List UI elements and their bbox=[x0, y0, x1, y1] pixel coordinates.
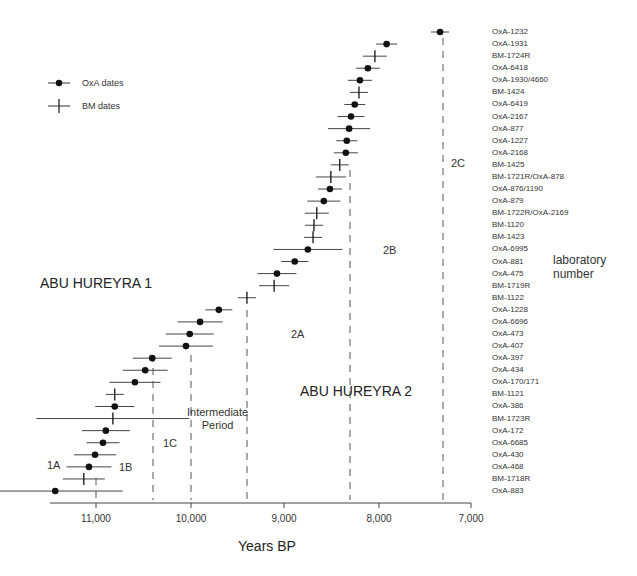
data-point-oxa bbox=[336, 137, 357, 144]
lab-number-label: OxA-6419 bbox=[492, 99, 528, 109]
data-point-oxa bbox=[257, 270, 296, 277]
x-axis-title: Years BP bbox=[238, 538, 296, 554]
data-point-bm bbox=[331, 159, 349, 171]
data-point-oxa bbox=[334, 150, 358, 157]
lab-number-label: OxA-386 bbox=[492, 401, 524, 411]
data-point-oxa bbox=[74, 452, 116, 459]
lab-number-label: BM-1723R bbox=[492, 414, 530, 424]
lab-number-label: OxA-883 bbox=[492, 486, 524, 496]
phase-2a-label: 2A bbox=[291, 328, 304, 341]
data-point-oxa bbox=[318, 186, 342, 193]
data-point-oxa bbox=[66, 464, 111, 471]
data-point-oxa bbox=[166, 331, 214, 338]
data-point-oxa bbox=[338, 113, 365, 120]
lab-number-label: BM-1120 bbox=[492, 220, 524, 230]
phase-1c-label: 1C bbox=[163, 437, 177, 450]
lab-number-label: BM-1423 bbox=[492, 232, 524, 242]
data-point-oxa bbox=[348, 77, 372, 84]
x-axis bbox=[50, 503, 471, 508]
lab-number-label: OxA-1232 bbox=[492, 27, 528, 37]
lab-number-label: OxA-879 bbox=[492, 196, 524, 206]
data-point-bm bbox=[63, 473, 105, 485]
lab-number-label: BM-1724R bbox=[492, 51, 530, 61]
lab-number-label: OxA-172 bbox=[492, 426, 524, 436]
lab-number-label: OxA-473 bbox=[492, 329, 524, 339]
lab-number-label: BM-1718R bbox=[492, 474, 530, 484]
lab-number-label: OxA-468 bbox=[492, 462, 524, 472]
data-point-oxa bbox=[376, 41, 397, 48]
abu-hureyra-2-label: ABU HUREYRA 2 bbox=[300, 383, 412, 399]
tick-8000: 8,000 bbox=[366, 513, 391, 524]
data-point-oxa bbox=[281, 258, 308, 265]
data-point-oxa bbox=[356, 65, 380, 72]
lab-number-label: OxA-1930/4660 bbox=[492, 75, 548, 85]
tick-10000: 10,000 bbox=[176, 513, 207, 524]
lab-number-label: OxA-1227 bbox=[492, 136, 528, 146]
lab-number-label: OxA-475 bbox=[492, 269, 524, 279]
data-point-bm bbox=[305, 219, 323, 231]
legend-bm-label: BM dates bbox=[82, 101, 120, 111]
lab-number-label: BM-1121 bbox=[492, 389, 524, 399]
legend-oxa-label: OxA dates bbox=[82, 78, 124, 88]
data-point-oxa bbox=[159, 343, 213, 350]
data-point-oxa bbox=[95, 403, 134, 410]
data-point-oxa bbox=[328, 125, 370, 132]
data-point-bm bbox=[259, 280, 289, 292]
phase-2c-label: 2C bbox=[451, 157, 465, 170]
data-point-bm bbox=[305, 207, 329, 219]
y-axis-title: laboratory number bbox=[553, 253, 606, 281]
legend bbox=[48, 80, 70, 113]
lab-number-label: OxA-407 bbox=[492, 341, 524, 351]
period-boundary-lines bbox=[96, 38, 443, 500]
lab-number-label: OxA-881 bbox=[492, 257, 524, 267]
lab-number-label: OxA-1228 bbox=[492, 305, 528, 315]
data-point-bm bbox=[106, 388, 124, 400]
data-point-oxa bbox=[344, 101, 365, 108]
data-point-bm bbox=[316, 171, 346, 183]
lab-number-label: OxA-6696 bbox=[492, 317, 528, 327]
lab-number-label: OxA-434 bbox=[492, 365, 524, 375]
lab-number-label: BM-1719R bbox=[492, 281, 530, 291]
data-point-oxa bbox=[431, 29, 449, 36]
lab-number-label: OxA-430 bbox=[492, 450, 524, 460]
data-point-oxa bbox=[133, 355, 172, 362]
lab-number-label: OxA-6418 bbox=[492, 63, 528, 73]
lab-number-label: BM-1721R/OxA-878 bbox=[492, 172, 564, 182]
lab-number-label: OxA-170/171 bbox=[492, 377, 539, 387]
data-point-bm bbox=[36, 413, 189, 425]
data-point-bm bbox=[350, 86, 368, 98]
lab-number-label: OxA-2167 bbox=[492, 112, 528, 122]
data-point-oxa bbox=[273, 246, 342, 253]
tick-9000: 9,000 bbox=[271, 513, 296, 524]
lab-number-label: OxA-397 bbox=[492, 353, 524, 363]
data-point-oxa bbox=[205, 307, 232, 314]
lab-number-label: OxA-6685 bbox=[492, 438, 528, 448]
phase-1b-label: 1B bbox=[119, 461, 132, 474]
lab-number-label: BM-1722R/OxA-2169 bbox=[492, 208, 568, 218]
data-point-bm bbox=[363, 50, 387, 62]
data-point-oxa bbox=[307, 198, 340, 205]
lab-number-label: OxA-2168 bbox=[492, 148, 528, 158]
lab-number-label: BM-1425 bbox=[492, 160, 524, 170]
tick-7000: 7,000 bbox=[458, 513, 483, 524]
data-point-oxa bbox=[82, 427, 130, 434]
data-point-oxa bbox=[0, 488, 123, 495]
data-point-bm bbox=[238, 292, 256, 304]
lab-number-label: OxA-876/1190 bbox=[492, 184, 543, 194]
phase-2b-label: 2B bbox=[383, 244, 396, 257]
abu-hureyra-1-label: ABU HUREYRA 1 bbox=[40, 275, 152, 291]
data-point-oxa bbox=[123, 367, 168, 374]
intermediate-period-label: Intermediate Period bbox=[187, 406, 248, 432]
data-point-oxa bbox=[178, 319, 223, 326]
lab-number-label: OxA-1931 bbox=[492, 39, 528, 49]
lab-number-label: BM-1424 bbox=[492, 87, 524, 97]
lab-number-label: OxA-877 bbox=[492, 124, 524, 134]
data-point-bm bbox=[304, 231, 322, 243]
data-point-oxa bbox=[87, 439, 120, 446]
tick-11000: 11,000 bbox=[81, 513, 111, 524]
phase-1a-label: 1A bbox=[47, 459, 60, 472]
lab-number-label: OxA-6995 bbox=[492, 244, 528, 254]
lab-number-label: BM-1122 bbox=[492, 293, 524, 303]
